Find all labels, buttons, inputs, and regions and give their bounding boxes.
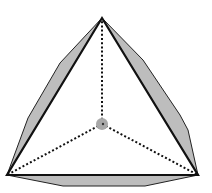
main-triangle <box>7 18 198 175</box>
bottom-bulge <box>7 175 198 186</box>
center-dot <box>102 123 104 125</box>
tetrahedron-diagram <box>0 0 212 193</box>
